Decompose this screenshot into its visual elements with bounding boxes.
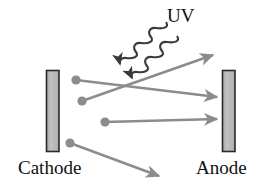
anode-label: Anode — [196, 158, 247, 177]
cathode-label: Cathode — [18, 158, 81, 177]
anode-plate — [223, 71, 236, 152]
electron-dot-2 — [77, 96, 86, 105]
electron-dot-4 — [65, 138, 74, 147]
uv-label: UV — [167, 6, 194, 25]
electron-dot-1 — [71, 75, 80, 84]
electron-dot-3 — [100, 117, 109, 126]
cathode-plate — [47, 71, 60, 152]
uv-wave-upper — [120, 22, 167, 64]
photoelectric-effect-figure: UV Cathode Anode — [0, 0, 270, 189]
electron-ray-4 — [70, 143, 159, 176]
electron-ray-3 — [105, 119, 217, 122]
